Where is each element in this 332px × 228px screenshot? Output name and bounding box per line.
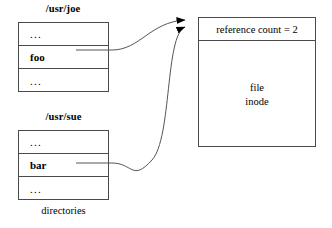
file-inode-box: reference count = 2 file inode	[198, 17, 316, 147]
directory-box-usr-sue: ... bar ...	[18, 130, 109, 200]
directory-label-usr-joe: /usr/joe	[18, 3, 108, 14]
directory-entry-row: ...	[19, 23, 108, 46]
directories-caption: directories	[18, 205, 109, 216]
directory-box-usr-joe: ... foo ...	[18, 22, 109, 92]
inode-body: file inode	[199, 41, 315, 147]
reference-count-label: reference count = 2	[199, 18, 315, 41]
inode-body-line-file: file	[250, 81, 264, 95]
diagram-canvas: /usr/joe ... foo ... /usr/sue ... bar ..…	[0, 0, 332, 228]
directory-entry-row: ...	[19, 69, 108, 92]
directory-label-usr-sue: /usr/sue	[18, 111, 109, 122]
directory-entry-bar: bar	[19, 154, 108, 177]
directory-entry-foo: foo	[19, 46, 108, 69]
directory-entry-row: ...	[19, 177, 108, 200]
directory-entry-row: ...	[19, 131, 108, 154]
inode-body-line-inode: inode	[245, 95, 268, 109]
